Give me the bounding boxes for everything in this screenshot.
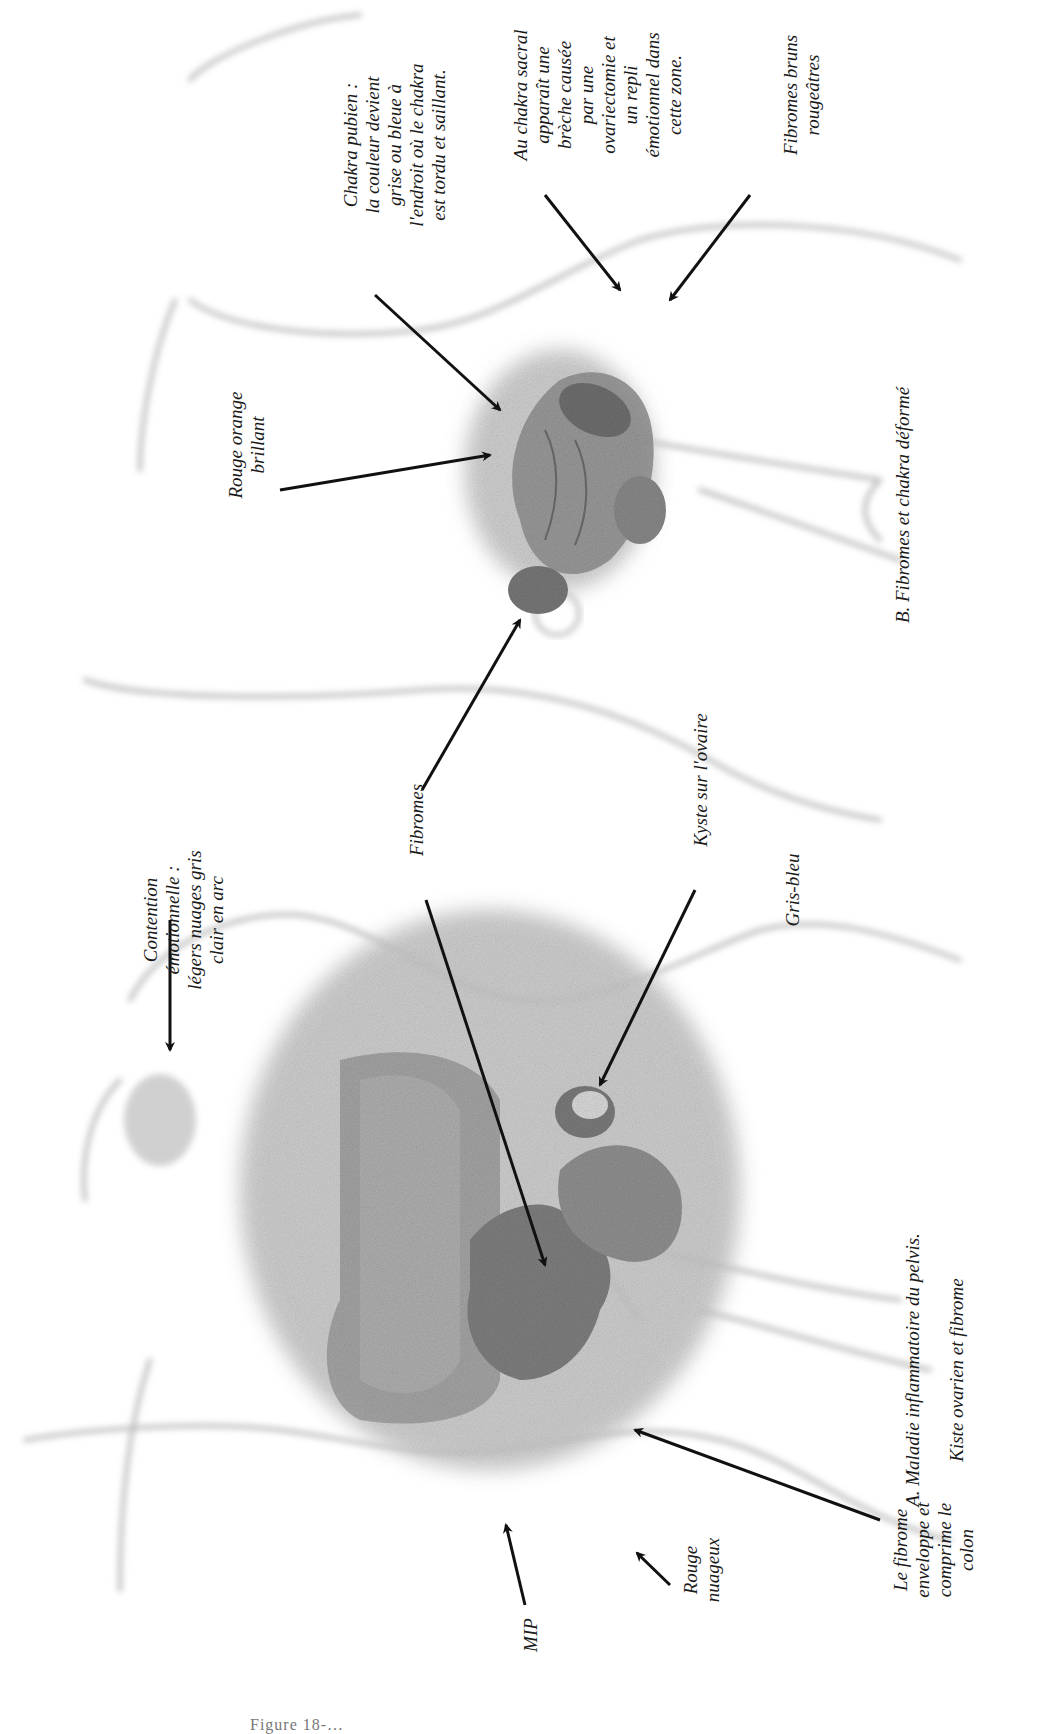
- figure-number-cut: Figure 18-…: [250, 1716, 344, 1734]
- label-chakra-sacral: Au chakra sacral apparaît une brèche cau…: [510, 0, 686, 195]
- label-gris-bleu: Gris-bleu: [782, 830, 804, 950]
- label-fibromes: Fibromes: [406, 760, 428, 880]
- label-kyste-ovaire: Kyste sur l'ovaire: [690, 690, 712, 870]
- caption-panel-a-line2: Kiste ovarien et fibrome: [946, 1278, 967, 1461]
- label-rouge-nuageux: Rouge nuageux: [680, 1515, 724, 1625]
- caption-panel-a: A. Maladie inflammatoire du pelvis. Kist…: [880, 1160, 968, 1580]
- label-chakra-pubien: Chakra pubien : la couleur devient grise…: [340, 5, 450, 285]
- label-contention: Contention émotionnelle : légers nuages …: [140, 830, 228, 1010]
- emotional-cloud: [124, 1074, 196, 1166]
- panel-a-pelvis-lesion: [240, 910, 740, 1470]
- caption-panel-b: B. Fibromes et chakra déformé: [892, 295, 914, 715]
- label-fibromes-bruns: Fibromes bruns rougeâtres: [780, 15, 824, 175]
- panel-b-chakra-lesion: [465, 350, 666, 614]
- caption-panel-a-line1: A. Maladie inflammatoire du pelvis.: [902, 1233, 923, 1507]
- label-rouge-orange: Rouge orange brillant: [225, 375, 269, 515]
- label-mip: MIP: [520, 1605, 542, 1665]
